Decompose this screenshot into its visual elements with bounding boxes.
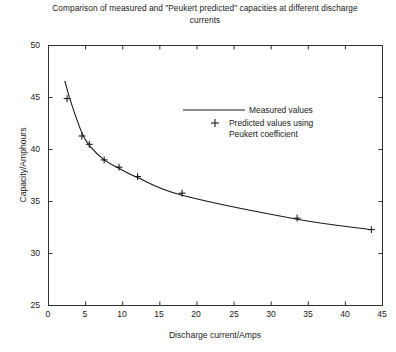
- axis-ticks: [49, 46, 383, 306]
- series-measured-values: [65, 81, 372, 230]
- legend-marks: [183, 110, 245, 127]
- chart-figure: Comparison of measured and "Peukert pred…: [0, 0, 396, 352]
- plot-area: [0, 0, 396, 352]
- legend-plus-sample: [211, 119, 219, 127]
- axes-box: [49, 46, 383, 306]
